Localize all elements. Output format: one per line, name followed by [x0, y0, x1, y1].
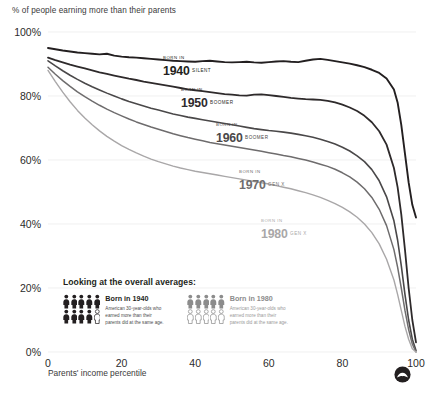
person-icon-outline [203, 309, 210, 324]
series-annotation-1950: BORN IN 1950BOOMER [181, 88, 233, 110]
series-annotation-1970: BORN IN 1970GEN X [239, 170, 285, 192]
pictogram-cell [187, 309, 194, 324]
y-axis-tick-label: 60% [20, 154, 41, 166]
series-annotation-born-in-label: BORN IN [216, 123, 268, 127]
series-annotation-generation: GEN X [290, 231, 307, 236]
series-annotation-born-in-label: BORN IN [239, 170, 285, 174]
person-icon-filled [218, 294, 225, 309]
pictogram-cell [86, 294, 93, 309]
person-icon-filled [86, 294, 93, 309]
pictogram-cell [210, 309, 217, 324]
series-annotation-year: 1940 [163, 64, 190, 78]
pictogram-1940 [63, 294, 100, 327]
series-annotation-generation: BOOMER [245, 135, 268, 140]
pictogram-cell [63, 294, 70, 309]
person-icon-outline [218, 309, 225, 324]
pictogram-cell [203, 309, 210, 324]
x-axis-label: Parents' income percentile [48, 368, 147, 378]
legend-group-1980: Born in 1980 American 30-year-olds who e… [187, 294, 289, 327]
pictogram-cell [210, 294, 217, 309]
series-annotation-born-in-label: BORN IN [163, 56, 211, 60]
legend-item-name: Born in 1980 [230, 294, 290, 303]
series-annotation-generation: BOOMER [210, 100, 233, 105]
series-annotation-1960: BORN IN 1960BOOMER [216, 123, 268, 145]
person-icon-filled [71, 309, 78, 324]
y-axis-tick-label: 80% [20, 90, 41, 102]
person-icon-filled [86, 309, 93, 324]
pictogram-cell [94, 294, 101, 309]
series-annotation-born-in-label: BORN IN [181, 88, 233, 92]
pictogram-cell [195, 294, 202, 309]
person-icon-outline [195, 309, 202, 324]
series-annotation-1940: BORN IN 1940SILENT [163, 56, 211, 78]
chart-plot-area: 0%20%40%60%80%100% 020406080100 Parents'… [0, 0, 432, 394]
person-icon-filled [203, 294, 210, 309]
pictogram-cell [71, 309, 78, 324]
x-axis-tick-label: 40 [189, 357, 201, 369]
series-annotation-year: 1970 [239, 178, 266, 192]
pictogram-cell [195, 309, 202, 324]
person-icon-outline [210, 309, 217, 324]
pictogram-cell [203, 294, 210, 309]
legend-panel: Looking at the overall averages: Born in… [63, 277, 295, 327]
person-icon-filled [78, 309, 85, 324]
series-annotation-year: 1980 [261, 227, 288, 241]
pictogram-cell [71, 294, 78, 309]
upshot-logo-icon [394, 366, 411, 383]
pictogram-cell [78, 309, 85, 324]
legend-item-description: American 30-year-olds who earned more th… [230, 305, 290, 327]
pictogram-cell [63, 309, 70, 324]
person-icon-filled [71, 294, 78, 309]
person-icon-filled [63, 309, 70, 324]
series-annotation-1980: BORN IN 1980GEN X [261, 219, 307, 241]
person-icon-outline [94, 309, 101, 324]
person-icon-filled [63, 294, 70, 309]
legend-item-description: American 30-year-olds who earned more th… [105, 305, 165, 327]
pictogram-1980 [187, 294, 224, 327]
pictogram-cell [218, 309, 225, 324]
pictogram-cell [187, 294, 194, 309]
x-axis-tick-label: 60 [263, 357, 275, 369]
x-axis-tick-label: 80 [337, 357, 349, 369]
y-axis-tick-label: 20% [20, 282, 41, 294]
legend-heading: Looking at the overall averages: [63, 277, 295, 287]
legend-item-name: Born in 1940 [105, 294, 165, 303]
person-icon-filled [94, 294, 101, 309]
person-icon-outline [187, 309, 194, 324]
chart-container: % of people earning more than their pare… [0, 0, 432, 394]
pictogram-cell [78, 294, 85, 309]
series-annotation-year: 1950 [181, 96, 208, 110]
series-annotation-year: 1960 [216, 131, 243, 145]
person-icon-filled [78, 294, 85, 309]
series-annotation-born-in-label: BORN IN [261, 219, 307, 223]
pictogram-cell [86, 309, 93, 324]
series-annotation-generation: GEN X [268, 182, 285, 187]
series-annotation-generation: SILENT [192, 68, 211, 73]
pictogram-cell [94, 309, 101, 324]
y-axis-tick-label: 40% [20, 218, 41, 230]
pictogram-cell [218, 294, 225, 309]
legend-group-1940: Born in 1940 American 30-year-olds who e… [63, 294, 165, 327]
y-axis-tick-label: 100% [14, 26, 41, 38]
person-icon-filled [210, 294, 217, 309]
person-icon-filled [187, 294, 194, 309]
person-icon-filled [195, 294, 202, 309]
y-axis-tick-label: 0% [26, 346, 41, 358]
